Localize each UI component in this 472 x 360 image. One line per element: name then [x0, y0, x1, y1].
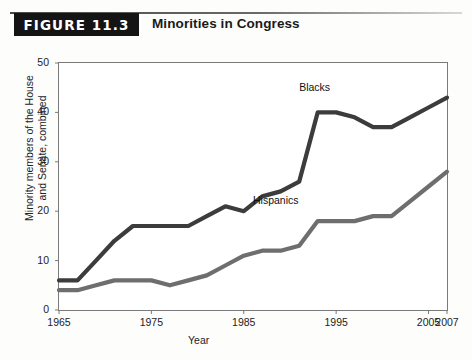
y-axis-label: Minority members of the House and Senate…	[23, 43, 49, 253]
x-tick-label: 2007	[422, 316, 472, 328]
y-axis-label-line2: and Senate, combined	[36, 43, 49, 253]
line-chart	[0, 0, 472, 360]
y-tick-label: 10	[15, 254, 49, 266]
x-tick-label: 1995	[311, 316, 361, 328]
y-tick-label: 0	[15, 303, 49, 315]
x-tick-label: 1985	[219, 316, 269, 328]
series-label-hispanics: Hispanics	[253, 194, 299, 206]
series-label-blacks: Blacks	[299, 81, 330, 93]
x-tick-label: 1975	[126, 316, 176, 328]
y-axis-label-line1: Minority members of the House	[23, 43, 36, 253]
axis-ticks	[55, 63, 447, 314]
x-axis-label: Year	[188, 334, 209, 346]
x-tick-label: 1965	[34, 316, 84, 328]
series-line-hispanics	[59, 172, 447, 291]
